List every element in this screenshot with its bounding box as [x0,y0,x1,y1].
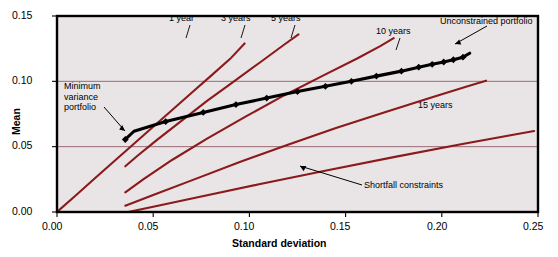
chart-canvas [0,0,558,257]
x-tick-label-005: 0.05 [138,220,158,232]
min-variance-line-1: Minimum [64,81,101,92]
y-tick-label-015: 0.15 [12,9,32,21]
min-variance-line-2: variance [64,92,101,103]
curve-label-1-year: 1 year [169,13,194,23]
curve-label-15-years: 15 years [418,100,453,110]
x-tick-label-015: 0.15 [330,220,350,232]
x-tick-label-010: 0.10 [234,220,254,232]
chart-figure: 0.15 0.10 0.05 0.00 0.00 0.05 0.10 0.15 … [0,0,558,257]
x-tick-label-025: 0.25 [523,220,543,232]
plot-background [57,16,538,212]
min-variance-annotation: Minimum variance portfolio [64,81,101,113]
y-tick-label-000: 0.00 [12,205,32,217]
min-variance-line-3: portfolio [64,102,101,113]
y-tick-label-010: 0.10 [12,74,32,86]
y-tick-label-005: 0.05 [12,139,32,151]
shortfall-constraints-annotation: Shortfall constraints [364,180,443,191]
x-axis-title: Standard deviation [232,237,327,249]
x-tick-label-020: 0.20 [427,220,447,232]
curve-label-5-years: 5 years [271,13,301,23]
x-tick-label-000: 0.00 [42,220,62,232]
curve-label-3-years: 3 years [221,13,251,23]
unconstrained-portfolio-annotation: Unconstrained portfolio [440,16,533,27]
y-axis-title: Mean [10,108,22,135]
curve-label-10-years: 10 years [376,26,411,36]
